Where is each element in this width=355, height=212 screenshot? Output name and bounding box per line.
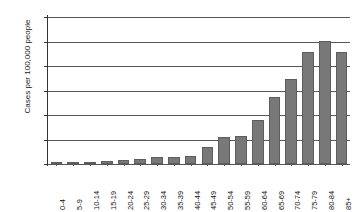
x-tick-mark — [308, 164, 309, 166]
bar — [336, 52, 348, 164]
x-tick-label: 80-84 — [328, 191, 336, 210]
x-tick-mark — [174, 164, 175, 166]
x-tick-mark — [140, 164, 141, 166]
x-tick-label: 15-19 — [110, 191, 118, 210]
x-tick-mark — [241, 164, 242, 166]
bar — [285, 79, 297, 164]
x-tick-label: 25-29 — [143, 191, 151, 210]
x-tick-mark — [275, 164, 276, 166]
x-tick-mark — [191, 164, 192, 166]
x-tick-mark — [157, 164, 158, 166]
x-tick-label: 10-14 — [93, 191, 101, 210]
bar — [202, 147, 214, 164]
bar — [168, 157, 180, 164]
x-tick-mark — [325, 164, 326, 166]
x-tick-label: 55-59 — [244, 191, 252, 210]
bar-chart: Cases per 100,000 people 050010001500200… — [0, 0, 355, 212]
x-tick-mark — [342, 164, 343, 166]
x-tick-label: 50-54 — [227, 191, 235, 210]
x-tick-label: 30-34 — [160, 191, 168, 210]
x-tick-label: 60-64 — [261, 191, 269, 210]
x-tick-label: 70-74 — [294, 191, 302, 210]
gridline — [48, 164, 350, 165]
bar — [252, 120, 264, 164]
x-tick-label: 40-44 — [194, 191, 202, 210]
bar — [185, 156, 197, 164]
x-tick-mark — [90, 164, 91, 166]
x-tick-label: 0-4 — [59, 199, 67, 210]
x-tick-label: 85+ — [345, 197, 353, 210]
y-tick-mark — [44, 164, 48, 165]
bar — [302, 52, 314, 164]
x-tick-mark — [207, 164, 208, 166]
x-tick-mark — [73, 164, 74, 166]
x-tick-label: 65-69 — [278, 191, 286, 210]
x-tick-mark — [107, 164, 108, 166]
bar-series — [48, 17, 350, 164]
x-tick-label: 5-9 — [76, 199, 84, 210]
bar — [319, 41, 331, 164]
x-tick-mark — [56, 164, 57, 166]
x-tick-label: 35-39 — [177, 191, 185, 210]
x-tick-mark — [124, 164, 125, 166]
x-tick-mark — [224, 164, 225, 166]
x-tick-mark — [291, 164, 292, 166]
x-tick-label: 75-79 — [311, 191, 319, 210]
x-axis-labels: 0-45-910-1415-1920-2425-2930-3435-3940-4… — [48, 166, 350, 212]
bar — [269, 97, 281, 164]
x-tick-label: 20-24 — [127, 191, 135, 210]
bar — [235, 136, 247, 164]
x-tick-mark — [258, 164, 259, 166]
bar — [151, 157, 163, 164]
y-axis-title: Cases per 100,000 people — [23, 0, 32, 142]
bar — [218, 137, 230, 164]
x-tick-label: 45-49 — [210, 191, 218, 210]
